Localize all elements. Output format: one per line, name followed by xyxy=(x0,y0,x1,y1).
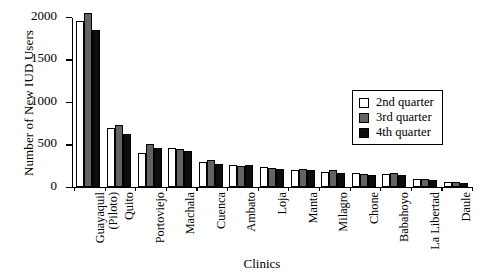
x-axis-category-label: Quito xyxy=(123,192,136,220)
y-tick-label: 1000 xyxy=(31,93,57,109)
x-axis-title: Clinics xyxy=(0,256,484,272)
bar xyxy=(154,148,162,187)
chart-legend: 2nd quarter3rd quarter4th quarter xyxy=(352,90,443,145)
legend-item: 2nd quarter xyxy=(359,95,434,110)
bar-group xyxy=(195,18,226,187)
bar xyxy=(307,170,315,187)
x-axis-category-label: La Libertad xyxy=(429,192,442,250)
y-tick-mark xyxy=(66,17,72,18)
bar xyxy=(176,149,184,187)
x-label-line: Cuenca xyxy=(214,192,228,229)
bar xyxy=(352,173,360,187)
y-axis-tick: 0 xyxy=(66,187,72,188)
bar xyxy=(115,125,123,187)
y-tick-label: 1500 xyxy=(31,50,57,66)
y-tick-mark xyxy=(66,102,72,103)
bar xyxy=(299,169,307,187)
y-tick-label: 500 xyxy=(38,135,58,151)
x-label-line: Milagro xyxy=(336,192,350,232)
bar xyxy=(92,30,100,187)
legend-label: 3rd quarter xyxy=(376,110,432,125)
x-tick-mark xyxy=(288,187,289,191)
x-axis-category-label: Ambato xyxy=(245,192,258,232)
legend-swatch-q4 xyxy=(359,128,369,138)
x-axis-category-label: Guayaquil(Piloto) xyxy=(94,192,120,243)
bar xyxy=(146,144,154,187)
x-label-line: Babahoyo xyxy=(397,192,411,242)
bar xyxy=(360,174,368,187)
bar-group xyxy=(104,18,135,187)
x-tick-mark xyxy=(380,187,381,191)
bar-group xyxy=(257,18,288,187)
x-axis-category-label: Chone xyxy=(368,192,381,224)
x-label-line: Portoviejo xyxy=(153,192,167,243)
x-tick-mark xyxy=(350,187,351,191)
x-tick-mark xyxy=(227,187,228,191)
y-tick-mark xyxy=(66,187,72,188)
x-label-line: (Piloto) xyxy=(107,192,120,243)
x-tick-mark xyxy=(74,187,75,191)
bar xyxy=(444,182,452,187)
bar xyxy=(321,172,329,187)
bar xyxy=(199,162,207,188)
bar xyxy=(276,169,284,187)
bar xyxy=(421,179,429,187)
bar xyxy=(390,173,398,187)
x-label-line: Chone xyxy=(367,192,381,224)
x-axis-category-label: Machala xyxy=(184,192,197,234)
bar xyxy=(168,148,176,187)
bar xyxy=(268,168,276,187)
bar xyxy=(337,173,345,187)
legend-item: 4th quarter xyxy=(359,125,434,140)
x-label-line: Machala xyxy=(183,192,197,234)
x-axis-category-label: Portoviejo xyxy=(154,192,167,243)
bar-group xyxy=(287,18,318,187)
bar xyxy=(229,165,237,187)
bar-group xyxy=(73,18,104,187)
x-axis-category-label: Manta xyxy=(307,192,320,223)
x-axis-category-label: Cuenca xyxy=(215,192,228,229)
bar xyxy=(76,21,84,187)
legend-item: 3rd quarter xyxy=(359,110,434,125)
x-tick-mark xyxy=(472,187,473,191)
x-label-line: Manta xyxy=(306,192,320,223)
bar xyxy=(138,153,146,187)
x-axis-category-label: Daule xyxy=(460,192,473,221)
legend-label: 4th quarter xyxy=(376,125,431,140)
bar-chart-figure: Number of New IUD Users 0500100015002000… xyxy=(0,0,484,277)
bar xyxy=(368,175,376,187)
x-label-line: La Libertad xyxy=(428,192,442,250)
bar xyxy=(398,175,406,187)
bar xyxy=(245,165,253,187)
y-axis-tick: 2000 xyxy=(66,17,72,18)
y-tick-label: 0 xyxy=(51,178,58,194)
y-axis-tick: 1000 xyxy=(66,102,72,103)
legend-swatch-q2 xyxy=(359,98,369,108)
y-axis-tick: 500 xyxy=(66,144,72,145)
x-label-line: Ambato xyxy=(244,192,258,232)
bar xyxy=(84,13,92,187)
bar xyxy=(237,166,245,187)
bar xyxy=(260,167,268,187)
bar xyxy=(184,151,192,187)
x-axis-category-label: Loja xyxy=(276,192,289,215)
bar-group xyxy=(318,18,349,187)
bar-group xyxy=(226,18,257,187)
x-tick-mark xyxy=(105,187,106,191)
y-tick-label: 2000 xyxy=(31,8,57,24)
x-tick-mark xyxy=(319,187,320,191)
x-label-line: Daule xyxy=(459,192,473,221)
x-label-line: Loja xyxy=(275,192,289,215)
x-axis-category-label: Milagro xyxy=(337,192,350,232)
bar xyxy=(107,128,115,188)
bar xyxy=(123,134,131,187)
bar xyxy=(382,174,390,187)
bar xyxy=(413,179,421,187)
x-tick-mark xyxy=(441,187,442,191)
bar-group xyxy=(165,18,196,187)
bar xyxy=(429,180,437,187)
x-tick-mark xyxy=(196,187,197,191)
legend-swatch-q3 xyxy=(359,113,369,123)
x-tick-mark xyxy=(135,187,136,191)
y-axis-tick: 1500 xyxy=(66,59,72,60)
